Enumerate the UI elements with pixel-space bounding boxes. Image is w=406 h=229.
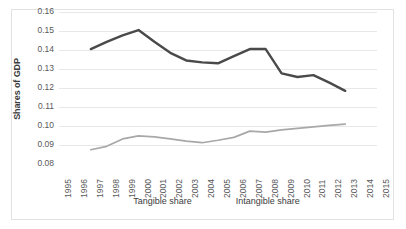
y-tick-label: 0.08: [24, 158, 54, 168]
y-tick-label: 0.11: [24, 101, 54, 111]
y-tick-label: 0.12: [24, 82, 54, 92]
gridlines: [59, 12, 377, 164]
y-tick-label: 0.16: [24, 6, 54, 16]
series-line-tangible-share: [91, 30, 345, 91]
series-lines: [91, 30, 345, 150]
plot-area: [59, 12, 377, 164]
plot-svg: [59, 12, 377, 164]
line-chart: Shares of GDP 0.160.150.140.130.120.110.…: [0, 0, 406, 229]
legend-label-intangible: Intangible share: [236, 196, 300, 206]
legend-item-tangible: Tangible share: [106, 196, 192, 206]
y-tick-label: 0.15: [24, 25, 54, 35]
y-tick-label: 0.14: [24, 44, 54, 54]
chart-legend: Tangible share Intangible share: [0, 196, 406, 206]
y-tick-label: 0.10: [24, 120, 54, 130]
series-line-intangible-share: [91, 124, 345, 150]
legend-item-intangible: Intangible share: [209, 196, 300, 206]
legend-label-tangible: Tangible share: [133, 196, 192, 206]
y-tick-label: 0.13: [24, 63, 54, 73]
y-tick-label: 0.09: [24, 139, 54, 149]
